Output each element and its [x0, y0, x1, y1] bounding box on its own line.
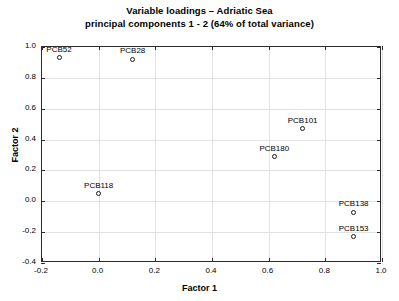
data-point-label: PCB118: [69, 181, 129, 190]
x-axis-tick: [212, 258, 213, 262]
y-axis-title: Factor 2: [10, 105, 20, 185]
x-axis-tick-label: -0.2: [21, 266, 61, 275]
x-axis-tick-label: 0.8: [304, 266, 344, 275]
data-point-label: PCB28: [103, 46, 163, 55]
data-point: [351, 210, 356, 215]
x-axis-tick: [155, 258, 156, 262]
data-point-label: PCB52: [29, 45, 89, 54]
gridline-horizontal: [42, 170, 380, 171]
x-axis-title: Factor 1: [0, 283, 399, 293]
x-axis-tick-top: [269, 46, 270, 50]
gridline-vertical: [269, 47, 270, 261]
x-axis-tick-label: 1.0: [361, 266, 399, 275]
plot-area: PCB52PCB28PCB101PCB180PCB118PCB138PCB153: [41, 46, 381, 262]
x-axis-tick-label: 0.2: [134, 266, 174, 275]
x-axis-tick: [325, 258, 326, 262]
y-axis-tick-label: 0.8: [6, 72, 36, 81]
gridline-horizontal: [42, 109, 380, 110]
y-axis-tick: [41, 201, 45, 202]
x-axis-tick: [42, 258, 43, 262]
data-point: [96, 191, 101, 196]
data-point: [130, 57, 135, 62]
x-axis-tick-top: [382, 46, 383, 50]
data-point: [351, 234, 356, 239]
y-axis-tick: [41, 232, 45, 233]
y-axis-tick-right: [377, 109, 381, 110]
y-axis-tick-label: -0.2: [6, 226, 36, 235]
y-axis-tick-label: -0.4: [6, 257, 36, 266]
gridline-horizontal: [42, 78, 380, 79]
data-point-label: PCB153: [324, 224, 384, 233]
data-point: [57, 55, 62, 60]
y-axis-tick-right: [377, 263, 381, 264]
gridline-horizontal: [42, 140, 380, 141]
gridline-vertical: [212, 47, 213, 261]
data-point: [272, 154, 277, 159]
x-axis-tick-label: 0.0: [78, 266, 118, 275]
data-point-label: PCB180: [244, 144, 304, 153]
y-axis-tick-right: [377, 170, 381, 171]
data-point-label: PCB101: [273, 116, 333, 125]
y-axis-tick-right: [377, 78, 381, 79]
y-axis-tick-right: [377, 47, 381, 48]
gridline-vertical: [155, 47, 156, 261]
y-axis-tick: [41, 140, 45, 141]
scatter-plot-figure: Variable loadings – Adriatic Sea princip…: [0, 0, 399, 301]
x-axis-tick-top: [99, 46, 100, 50]
y-axis-tick-label: 1.0: [6, 41, 36, 50]
x-axis-tick: [269, 258, 270, 262]
x-axis-tick-label: 0.4: [191, 266, 231, 275]
y-axis-tick-label: 0.0: [6, 195, 36, 204]
y-axis-tick: [41, 170, 45, 171]
x-axis-tick-top: [325, 46, 326, 50]
y-axis-tick: [41, 263, 45, 264]
data-point-label: PCB138: [324, 199, 384, 208]
x-axis-tick-top: [212, 46, 213, 50]
chart-title: Variable loadings – Adriatic Sea: [0, 4, 399, 17]
y-axis-tick-right: [377, 140, 381, 141]
gridline-vertical: [99, 47, 100, 261]
data-point: [300, 126, 305, 131]
x-axis-tick: [99, 258, 100, 262]
x-axis-tick: [382, 258, 383, 262]
chart-title-block: Variable loadings – Adriatic Sea princip…: [0, 4, 399, 30]
y-axis-tick: [41, 78, 45, 79]
x-axis-tick-label: 0.6: [248, 266, 288, 275]
chart-subtitle: principal components 1 - 2 (64% of total…: [0, 17, 399, 30]
y-axis-tick: [41, 109, 45, 110]
